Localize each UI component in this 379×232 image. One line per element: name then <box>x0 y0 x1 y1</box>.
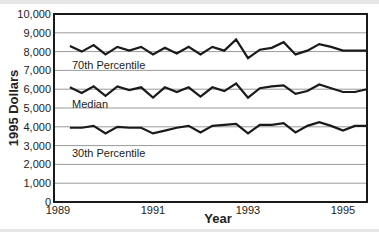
y-tick-label: 8,000 <box>23 46 51 58</box>
series-line-70th-percentile <box>70 39 367 58</box>
y-tick-label: 10,000 <box>17 8 51 20</box>
series-lines <box>70 39 367 133</box>
y-tick-label: 3,000 <box>23 140 51 152</box>
y-tick-label: 1,000 <box>23 177 51 189</box>
y-tick-label: 2,000 <box>23 158 51 170</box>
x-tick-label: 1995 <box>331 204 355 216</box>
x-tick-label: 1991 <box>141 204 165 216</box>
x-tick-label: 1989 <box>46 204 70 216</box>
y-axis-ticks: 01,0002,0003,0004,0005,0006,0007,0008,00… <box>17 8 51 208</box>
y-axis-title: 1995 Dollars <box>6 70 21 147</box>
y-tick-label: 5,000 <box>23 102 51 114</box>
x-axis-ticks: 1989199119931995 <box>46 204 355 216</box>
x-axis-title: Year <box>204 211 231 226</box>
label-70th-percentile: 70th Percentile <box>72 59 145 71</box>
x-tick-label: 1993 <box>236 204 260 216</box>
y-tick-label: 9,000 <box>23 27 51 39</box>
line-chart: 01,0002,0003,0004,0005,0006,0007,0008,00… <box>0 0 379 232</box>
series-line-30th-percentile <box>70 122 367 133</box>
y-tick-label: 7,000 <box>23 64 51 76</box>
label-median: Median <box>72 98 108 110</box>
y-tick-label: 4,000 <box>23 121 51 133</box>
label-30th-percentile: 30th Percentile <box>72 147 145 159</box>
series-line-median <box>70 84 367 98</box>
y-tick-label: 6,000 <box>23 83 51 95</box>
